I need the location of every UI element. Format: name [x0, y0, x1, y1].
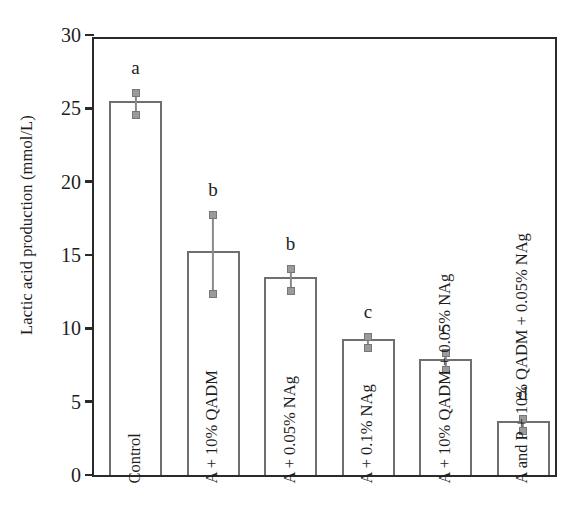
error-cap-upper-0 — [132, 89, 140, 97]
y-tick-label: 0 — [71, 465, 81, 485]
significance-letter-2: b — [286, 234, 296, 253]
error-cap-lower-3 — [364, 344, 372, 352]
category-label-0: Control — [126, 433, 143, 483]
y-tick-label: 10 — [61, 318, 81, 338]
error-cap-lower-2 — [287, 287, 295, 295]
error-cap-lower-0 — [132, 111, 140, 119]
significance-letter-3: c — [364, 302, 372, 321]
y-tick-label: 5 — [71, 392, 81, 412]
y-axis-title: Lactic acid production (mmol/L) — [17, 60, 37, 390]
y-tick-label: 20 — [61, 172, 81, 192]
error-cap-upper-2 — [287, 265, 295, 273]
category-label-2: A + 0.05% NAg — [281, 376, 298, 483]
y-tick-label: 15 — [61, 245, 81, 265]
error-bar-1 — [212, 211, 214, 290]
y-tick-mark — [85, 107, 94, 109]
error-cap-upper-3 — [364, 333, 372, 341]
bar-chart-figure: Lactic acid production (mmol/L) 05101520… — [0, 0, 588, 514]
plot-area: 051015202530 aControlbA + 10% QADMbA + 0… — [92, 37, 557, 477]
error-cap-lower-1 — [209, 290, 217, 298]
category-label-3: A + 0.1% NAg — [359, 384, 376, 483]
y-tick-mark — [85, 400, 94, 402]
y-tick-label: 25 — [61, 98, 81, 118]
bar-0 — [109, 101, 162, 475]
category-label-1: A + 10% QADM — [204, 370, 221, 483]
error-cap-upper-1 — [209, 211, 217, 219]
significance-letter-1: b — [208, 180, 218, 199]
y-tick-mark — [85, 254, 94, 256]
y-tick-mark — [85, 474, 94, 476]
category-label-5: A and P + 10% QADM + 0.05% NAg — [514, 233, 531, 483]
significance-letter-0: a — [131, 58, 139, 77]
category-label-4: A + 10% QADM + 0.05% NAg — [436, 274, 453, 484]
y-tick-mark — [85, 327, 94, 329]
y-tick-mark — [85, 34, 94, 36]
y-tick-label: 30 — [61, 25, 81, 45]
y-tick-mark — [85, 180, 94, 182]
